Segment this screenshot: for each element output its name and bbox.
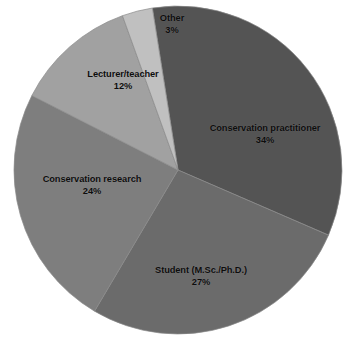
slice-label-percent: 34%	[210, 135, 321, 147]
slice-label-name: Student (M.Sc./Ph.D.)	[155, 265, 247, 277]
slice-label-other: Other 3%	[160, 13, 184, 36]
slice-label-conservation-research: Conservation research 24%	[43, 174, 142, 197]
slice-label-percent: 27%	[155, 277, 247, 289]
slice-label-student: Student (M.Sc./Ph.D.) 27%	[155, 265, 247, 288]
slice-label-conservation-practitioner: Conservation practitioner 34%	[210, 123, 321, 146]
slice-label-percent: 24%	[43, 186, 142, 198]
slice-label-percent: 12%	[87, 81, 158, 93]
slice-label-name: Conservation practitioner	[210, 123, 321, 135]
slice-label-name: Conservation research	[43, 174, 142, 186]
slice-label-name: Lecturer/teacher	[87, 69, 158, 81]
slice-label-name: Other	[160, 13, 184, 25]
pie-chart-figure: Conservation practitioner 34% Student (M…	[0, 0, 360, 350]
slice-label-lecturer-teacher: Lecturer/teacher 12%	[87, 69, 158, 92]
slice-label-percent: 3%	[160, 25, 184, 37]
figure-caption-cropped	[0, 339, 360, 350]
